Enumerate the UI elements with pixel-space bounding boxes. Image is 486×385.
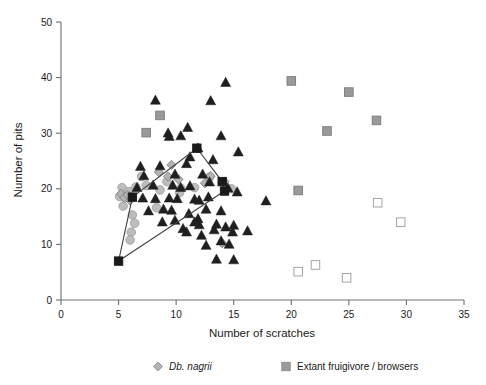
- x-tick-label: 35: [458, 309, 470, 320]
- y-tick-label: 40: [41, 72, 53, 83]
- data-point-marker: [130, 219, 139, 228]
- y-tick-label: 10: [41, 239, 53, 250]
- legend-label-0: Db. nagrii: [169, 361, 213, 372]
- data-point-marker: [126, 236, 135, 245]
- legend-marker-1: [282, 362, 290, 370]
- x-axis-label: Number of scratches: [209, 327, 315, 339]
- data-point-marker: [323, 127, 332, 136]
- chart-legend: Db. nagriiExtant fruigivore / browsers: [154, 361, 419, 372]
- scatter-plot-figure: 01020304050 Number of pits 0510152025303…: [0, 0, 486, 385]
- data-point-marker: [345, 88, 354, 97]
- data-point-marker: [373, 198, 382, 207]
- data-point-marker: [127, 228, 136, 237]
- x-tick-label: 30: [401, 309, 413, 320]
- data-point-marker: [311, 261, 320, 270]
- hull-vertex-marker: [114, 257, 122, 265]
- data-point-marker: [342, 273, 351, 282]
- x-tick-label: 5: [116, 309, 122, 320]
- y-tick-label: 20: [41, 183, 53, 194]
- x-tick-label: 15: [228, 309, 240, 320]
- data-point-marker: [156, 111, 165, 120]
- y-tick-label: 0: [46, 295, 52, 306]
- data-point-marker: [396, 218, 405, 227]
- y-tick-label: 50: [41, 17, 53, 28]
- data-point-marker: [142, 128, 151, 137]
- legend-label-1: Extant fruigivore / browsers: [297, 361, 418, 372]
- hull-vertex-marker: [193, 144, 201, 152]
- x-tick-label: 25: [343, 309, 355, 320]
- data-point-marker: [294, 267, 303, 276]
- data-point-marker: [372, 116, 381, 125]
- x-tick-label: 0: [58, 309, 64, 320]
- data-point-marker: [287, 77, 296, 86]
- hull-vertex-marker: [128, 193, 136, 201]
- x-tick-label: 10: [171, 309, 183, 320]
- data-point-marker: [294, 186, 303, 195]
- y-axis-label: Number of pits: [12, 122, 24, 197]
- x-tick-label: 20: [286, 309, 298, 320]
- y-tick-label: 30: [41, 128, 53, 139]
- hull-vertex-marker: [218, 177, 226, 185]
- hull-vertex-marker: [220, 187, 228, 195]
- data-point-marker: [119, 202, 128, 211]
